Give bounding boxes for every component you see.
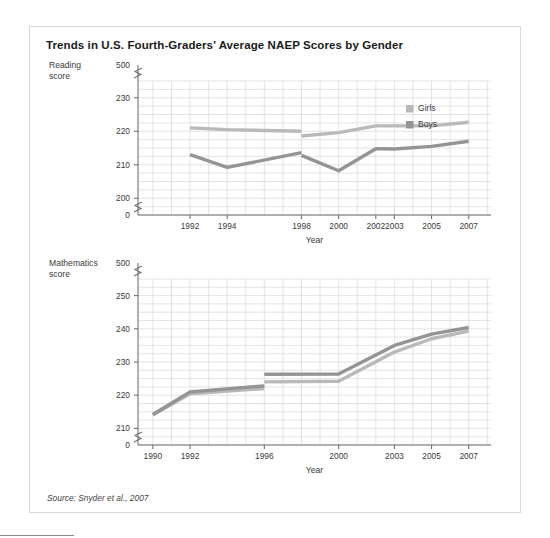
- y-tick-label: 210: [116, 423, 130, 433]
- legend-swatch-boys: [406, 121, 414, 129]
- source-note: Source: Snyder et al., 2007: [47, 493, 149, 503]
- mathematics-x-axis-title: Year: [306, 465, 324, 475]
- x-tick-label: 2007: [459, 221, 478, 231]
- x-tick-label: 2000: [329, 451, 348, 461]
- y-tick-label: 220: [116, 126, 130, 136]
- x-tick-label: 1996: [255, 451, 274, 461]
- legend-label-girls: Girls: [418, 103, 436, 113]
- y-tick-label-zero: 0: [125, 210, 130, 220]
- x-tick-label: 2003: [385, 221, 404, 231]
- y-tick-label: 230: [116, 357, 130, 367]
- x-tick-label: 2005: [422, 451, 441, 461]
- reading-plot: 2002102202305000199219941998200020022003…: [76, 57, 550, 275]
- bottom-rule: [0, 535, 74, 536]
- figure-card: Trends in U.S. Fourth-Graders’ Average N…: [29, 26, 521, 513]
- line-girls: [301, 122, 468, 136]
- screenshot-root: Trends in U.S. Fourth-Graders’ Average N…: [0, 0, 550, 538]
- axis-break-marker: [134, 266, 142, 276]
- x-tick-label: 1992: [181, 221, 200, 231]
- x-tick-label: 1990: [144, 451, 163, 461]
- y-tick-label-max: 500: [116, 258, 130, 268]
- mathematics-plot: 2102202302402505000199019921996200020032…: [76, 255, 550, 505]
- x-tick-label: 1992: [181, 451, 200, 461]
- y-tick-label-zero: 0: [125, 440, 130, 450]
- reading-axes: 2002102202305000199219941998200020022003…: [116, 60, 491, 245]
- x-tick-label: 2003: [385, 451, 404, 461]
- x-tick-label: 2005: [422, 221, 441, 231]
- y-tick-label: 230: [116, 93, 130, 103]
- x-tick-label: 2007: [459, 451, 478, 461]
- page-title: Trends in U.S. Fourth-Graders’ Average N…: [46, 39, 403, 51]
- legend-label-boys: Boys: [418, 119, 437, 129]
- mathematics-axes: 2102202302402505000199019921996200020032…: [116, 258, 491, 475]
- x-tick-label: 1994: [218, 221, 237, 231]
- mathematics-gridlines: [138, 279, 491, 445]
- axis-break-marker: [134, 68, 142, 78]
- legend-swatch-girls: [406, 105, 414, 113]
- line-girls: [190, 128, 301, 131]
- reading-chart: 2002102202305000199219941998200020022003…: [76, 57, 550, 275]
- reading-x-axis-title: Year: [306, 235, 324, 245]
- y-tick-label: 240: [116, 324, 130, 334]
- x-tick-label: 2002: [366, 221, 385, 231]
- y-tick-label-max: 500: [116, 60, 130, 70]
- mathematics-chart: 2102202302402505000199019921996200020032…: [76, 255, 550, 505]
- y-tick-label: 220: [116, 390, 130, 400]
- legend: GirlsBoys: [406, 103, 437, 129]
- x-tick-label: 2000: [329, 221, 348, 231]
- y-tick-label: 210: [116, 160, 130, 170]
- y-tick-label: 250: [116, 291, 130, 301]
- x-tick-label: 1998: [292, 221, 311, 231]
- reading-gridlines: [138, 81, 491, 215]
- series-boys: [153, 327, 469, 414]
- y-tick-label: 200: [116, 193, 130, 203]
